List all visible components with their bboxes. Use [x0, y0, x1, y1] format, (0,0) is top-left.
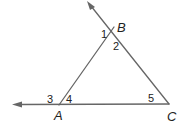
vertex-label-a: A: [53, 108, 63, 123]
ray-cb: [91, 6, 169, 104]
vertex-label-b: B: [117, 20, 126, 35]
vertex-label-c: C: [167, 109, 177, 124]
angle-label-5: 5: [148, 92, 154, 104]
arrowhead-left-icon: [12, 102, 22, 108]
angle-label-3: 3: [47, 93, 53, 105]
angle-label-4: 4: [66, 93, 72, 105]
triangle-diagram: 1 2 3 4 5 B A C: [0, 0, 184, 124]
angle-label-1: 1: [101, 28, 107, 40]
angle-label-2: 2: [113, 40, 119, 52]
ray-ca: [19, 104, 169, 105]
